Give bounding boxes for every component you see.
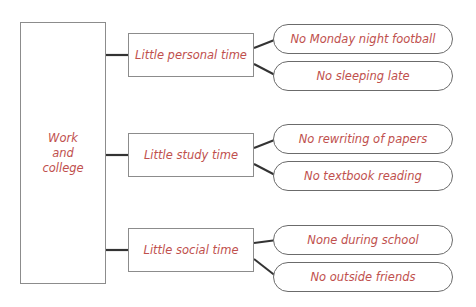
leaf-node-0-0-label: No Monday night football xyxy=(291,32,436,46)
leaf-node-2-0-label: None during school xyxy=(307,233,418,247)
branch-node-2: Little social time xyxy=(128,228,254,272)
leaf-node-0-1-label: No sleeping late xyxy=(316,69,409,83)
root-node-label: Work and college xyxy=(42,131,83,176)
branch-node-0: Little personal time xyxy=(128,33,254,77)
branch-node-2-label: Little social time xyxy=(144,243,239,257)
leaf-node-0-0: No Monday night football xyxy=(273,24,453,54)
root-node: Work and college xyxy=(20,22,106,284)
branch-node-1-label: Little study time xyxy=(144,148,238,162)
branch-node-0-label: Little personal time xyxy=(135,48,247,62)
leaf-node-1-1-label: No textbook reading xyxy=(304,169,422,183)
leaf-node-1-0-label: No rewriting of papers xyxy=(299,132,428,146)
leaf-node-0-1: No sleeping late xyxy=(273,61,453,91)
branch-node-1: Little study time xyxy=(128,133,254,177)
leaf-node-2-1: No outside friends xyxy=(273,262,453,292)
diagram-canvas: Work and college Little personal time No… xyxy=(0,0,476,307)
leaf-node-2-1-label: No outside friends xyxy=(311,270,416,284)
leaf-node-2-0: None during school xyxy=(273,225,453,255)
leaf-node-1-1: No textbook reading xyxy=(273,161,453,191)
leaf-node-1-0: No rewriting of papers xyxy=(273,124,453,154)
